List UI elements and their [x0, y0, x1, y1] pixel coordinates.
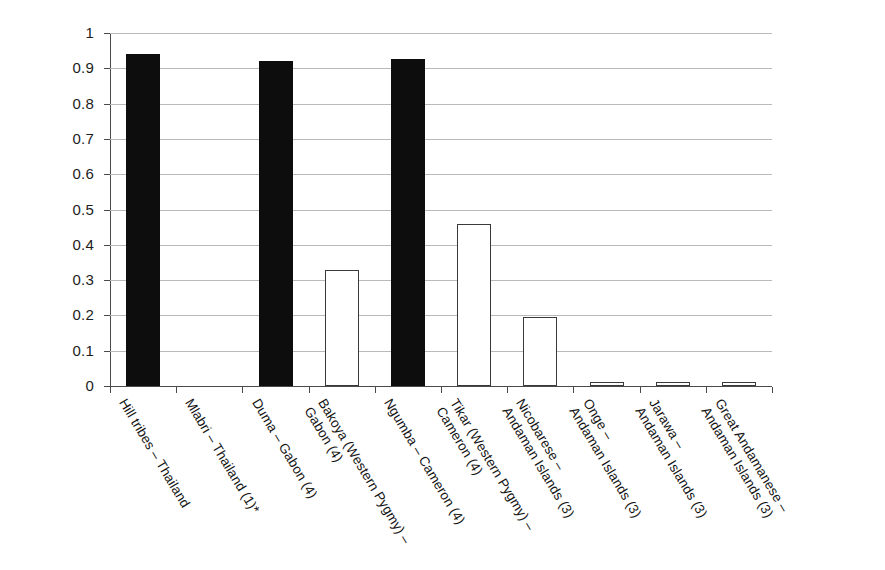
x-axis-tick: [375, 387, 376, 393]
gridline: [110, 280, 772, 281]
x-axis-tick: [309, 387, 310, 393]
gridline: [110, 68, 772, 69]
y-axis-tick-label: 0.8: [48, 96, 94, 111]
x-axis-label-line: Hill tribes – Thailand: [116, 396, 193, 510]
x-axis-tick: [110, 387, 111, 393]
gridline: [110, 139, 772, 140]
bar: [590, 382, 624, 386]
x-axis-label-line: Mlabri – Thailand (1)*: [182, 396, 262, 516]
x-axis-label-line: Gabon (4): [300, 404, 399, 555]
bar: [126, 54, 160, 386]
gridline: [110, 33, 772, 34]
x-axis-tick: [772, 387, 773, 393]
y-axis-tick-label: 0: [48, 378, 94, 393]
y-axis-tick-label: 1: [48, 25, 94, 40]
bar: [391, 59, 425, 386]
x-axis-category-label: Mlabri – Thailand (1)*: [182, 396, 263, 517]
x-axis-category-label: Hill tribes – Thailand: [115, 396, 193, 511]
genetic-diversity-bar-chart: Genetic Diversity 00.10.20.30.40.50.60.7…: [0, 0, 885, 570]
x-axis-tick: [573, 387, 574, 393]
x-axis-tick: [507, 387, 508, 393]
gridline: [110, 351, 772, 352]
y-axis-tick-label: 0.4: [48, 237, 94, 252]
bar: [457, 224, 491, 386]
gridline: [110, 210, 772, 211]
plot-area: [110, 33, 772, 386]
gridline: [110, 245, 772, 246]
y-axis-tick-label: 0.2: [48, 307, 94, 322]
bar: [656, 382, 690, 386]
y-axis-tick-label: 0.9: [48, 60, 94, 75]
bar: [325, 270, 359, 386]
bar: [722, 382, 756, 386]
y-axis-tick-label: 0.7: [48, 131, 94, 146]
y-axis-tick-label: 0.1: [48, 343, 94, 358]
gridline: [110, 104, 772, 105]
y-axis-tick-label: 0.6: [48, 166, 94, 181]
x-axis-tick: [242, 387, 243, 393]
x-axis-tick: [441, 387, 442, 393]
bar: [259, 61, 293, 386]
y-axis-tick-label: 0.3: [48, 272, 94, 287]
gridline: [110, 315, 772, 316]
y-axis-tick-label: 0.5: [48, 202, 94, 217]
bar: [523, 317, 557, 386]
x-axis-tick: [640, 387, 641, 393]
gridline: [110, 174, 772, 175]
x-axis-tick: [706, 387, 707, 393]
x-axis-tick: [176, 387, 177, 393]
gridline: [110, 386, 772, 387]
